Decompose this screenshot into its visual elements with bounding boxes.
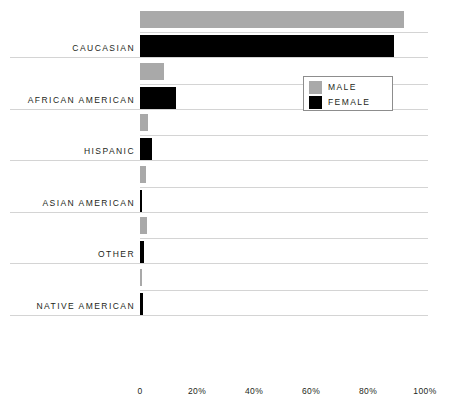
- legend-label-male: MALE: [328, 82, 357, 92]
- bar-female-5: [140, 241, 144, 263]
- category-label-6: NATIVE AMERICAN: [0, 301, 135, 311]
- bar-male-6: [140, 269, 142, 286]
- chart-legend: MALE FEMALE: [303, 76, 393, 111]
- bar-male-4: [140, 166, 146, 183]
- legend-item-male: MALE: [309, 80, 357, 94]
- category-label-3: HISPANIC: [0, 146, 135, 156]
- legend-label-female: FEMALE: [328, 97, 370, 107]
- gridline: [140, 135, 428, 136]
- female-swatch-icon: [309, 96, 322, 109]
- x-tick-label-4: 60%: [302, 386, 320, 396]
- x-tick-label-2: 20%: [188, 386, 206, 396]
- category-label-1: CAUCASIAN: [0, 43, 135, 53]
- bar-male-5: [140, 217, 147, 234]
- male-swatch-icon: [309, 81, 322, 94]
- bar-female-3: [140, 138, 152, 160]
- gridline: [10, 212, 428, 213]
- gridline: [10, 315, 428, 316]
- gridline: [140, 32, 428, 33]
- category-label-4: ASIAN AMERICAN: [0, 198, 135, 208]
- bar-chart: CAUCASIANAFRICAN AMERICANHISPANICASIAN A…: [0, 0, 458, 418]
- x-tick-label-5: 80%: [359, 386, 377, 396]
- category-label-5: OTHER: [0, 249, 135, 259]
- gridline: [140, 238, 428, 239]
- bar-male-3: [140, 114, 148, 131]
- category-label-2: AFRICAN AMERICAN: [0, 95, 135, 105]
- x-tick-label-6: 100%: [413, 386, 436, 396]
- bar-female-6: [140, 293, 143, 315]
- gridline: [140, 187, 428, 188]
- x-tick-label-3: 40%: [245, 386, 263, 396]
- bar-female-4: [140, 190, 142, 212]
- bar-female-2: [140, 87, 176, 109]
- gridline: [10, 160, 428, 161]
- gridline: [10, 263, 428, 264]
- bar-female-1: [140, 35, 394, 57]
- legend-item-female: FEMALE: [309, 95, 370, 109]
- bar-male-1: [140, 11, 404, 28]
- bar-male-2: [140, 63, 164, 80]
- gridline: [140, 290, 428, 291]
- gridline: [10, 57, 428, 58]
- x-tick-label-1: 0: [137, 386, 142, 396]
- plot-area: CAUCASIANAFRICAN AMERICANHISPANICASIAN A…: [0, 0, 458, 418]
